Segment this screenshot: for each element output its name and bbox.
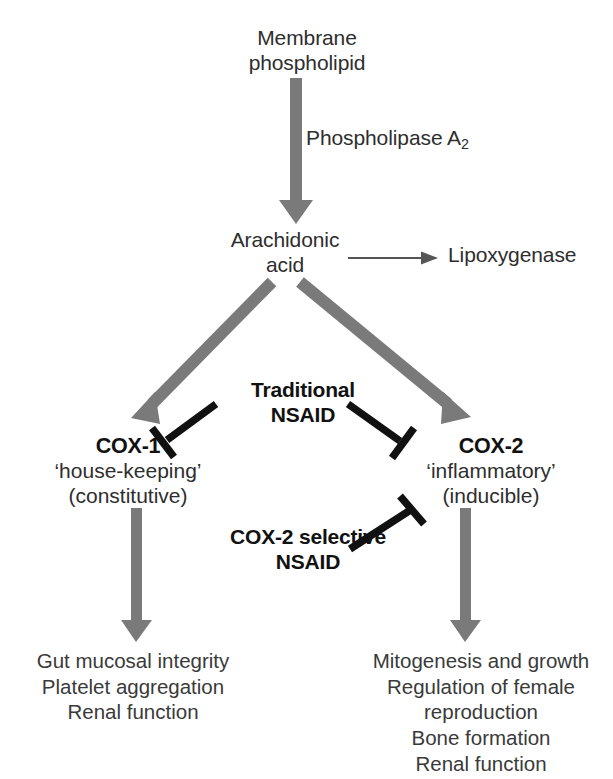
cox2-effect-3: reproduction	[352, 699, 610, 725]
membrane-phospholipid-line-1: Membrane	[184, 26, 430, 51]
cox2-selective-nsaid-line-1: COX-2 selective	[208, 525, 408, 550]
cox2-effect-4: Bone formation	[352, 725, 610, 751]
membrane-phospholipid-line-2: phospholipid	[184, 51, 430, 76]
pathway-diagram: Membrane phospholipid Phospholipase A2 A…	[0, 0, 613, 779]
cox2-effect-1: Mitogenesis and growth	[352, 648, 610, 674]
cox2-descriptor-2: (inducible)	[388, 484, 594, 509]
cox1-descriptor-2: (constitutive)	[28, 484, 228, 509]
node-arachidonic-acid: Arachidonic acid	[180, 228, 390, 278]
node-cox2: COX-2 ‘inflammatory’ (inducible)	[388, 434, 594, 509]
cox2-header: COX-2	[388, 434, 594, 459]
arachidonic-acid-line-2: acid	[180, 253, 390, 278]
arrow-cox1-to-effects	[121, 508, 152, 642]
node-cox1-effects: Gut mucosal integrity Platelet aggregati…	[8, 648, 258, 725]
cox1-effect-1: Gut mucosal integrity	[8, 648, 258, 674]
cox2-descriptor-1: ‘inflammatory’	[388, 459, 594, 484]
cox1-effect-2: Platelet aggregation	[8, 674, 258, 700]
arrow-cox2-to-effects	[450, 508, 481, 642]
traditional-nsaid-line-2: NSAID	[208, 403, 398, 428]
phospholipase-label: Phospholipase A	[306, 126, 461, 149]
node-cox1: COX-1 ‘house-keeping’ (constitutive)	[28, 434, 228, 509]
cox2-selective-nsaid-line-2: NSAID	[208, 550, 408, 575]
node-membrane-phospholipid: Membrane phospholipid	[184, 26, 430, 76]
lipoxygenase-label: Lipoxygenase	[448, 243, 610, 268]
cox1-descriptor-1: ‘house-keeping’	[28, 459, 228, 484]
node-phospholipase-a2: Phospholipase A2	[306, 126, 536, 153]
cox1-effect-3: Renal function	[8, 699, 258, 725]
node-cox2-effects: Mitogenesis and growth Regulation of fem…	[352, 648, 610, 776]
arachidonic-acid-line-1: Arachidonic	[180, 228, 390, 253]
cox1-header: COX-1	[28, 434, 228, 459]
cox2-effect-2: Regulation of female	[352, 674, 610, 700]
node-cox2-selective-nsaid: COX-2 selective NSAID	[208, 525, 408, 575]
traditional-nsaid-line-1: Traditional	[208, 378, 398, 403]
node-traditional-nsaid: Traditional NSAID	[208, 378, 398, 428]
cox2-effect-5: Renal function	[352, 751, 610, 777]
phospholipase-subscript: 2	[461, 136, 469, 152]
node-lipoxygenase: Lipoxygenase	[448, 243, 610, 268]
